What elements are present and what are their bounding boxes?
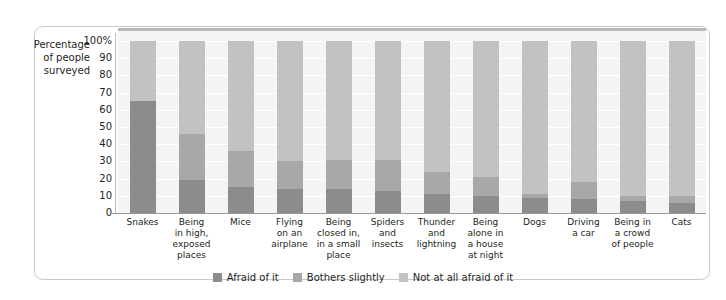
plot-top-rule <box>118 28 706 31</box>
afraid-swatch <box>213 273 222 282</box>
y-tick-label: 30 <box>76 156 112 166</box>
bar-segment-afraid <box>326 189 352 213</box>
bar-segment-not-afraid <box>620 41 646 196</box>
bar-segment-afraid <box>669 203 695 213</box>
bothers-swatch <box>293 273 302 282</box>
y-tick-label: 50 <box>76 122 112 132</box>
bar-segment-bothers <box>277 161 303 189</box>
bar-slot <box>412 41 461 213</box>
stacked-bar[interactable] <box>669 41 695 213</box>
bar-segment-bothers <box>375 160 401 191</box>
stacked-bar[interactable] <box>277 41 303 213</box>
bar-slot <box>265 41 314 213</box>
legend-label: Afraid of it <box>227 272 279 283</box>
bar-segment-afraid <box>179 180 205 213</box>
bar-segment-bothers <box>424 172 450 194</box>
stacked-bar[interactable] <box>179 41 205 213</box>
bar-segment-bothers <box>571 182 597 199</box>
bar-slot <box>216 41 265 213</box>
bar-segment-afraid <box>277 189 303 213</box>
bar-segment-afraid <box>571 199 597 213</box>
stacked-bar[interactable] <box>375 41 401 213</box>
legend-item[interactable]: Not at all afraid of it <box>399 272 514 283</box>
y-tick-label: 90 <box>76 53 112 63</box>
bar-segment-afraid <box>130 101 156 213</box>
y-axis-line <box>115 33 116 214</box>
bar-segment-not-afraid <box>522 41 548 194</box>
bar-segment-bothers <box>669 196 695 203</box>
stacked-bar[interactable] <box>473 41 499 213</box>
stacked-bar[interactable] <box>571 41 597 213</box>
chart-figure: Percentage of people surveyed 0102030405… <box>0 0 726 300</box>
bar-slot <box>608 41 657 213</box>
stacked-bar[interactable] <box>228 41 254 213</box>
legend-label: Not at all afraid of it <box>413 272 514 283</box>
y-tick-label: 80 <box>76 70 112 80</box>
bar-segment-afraid <box>424 194 450 213</box>
y-tick-label: 100% <box>72 36 112 46</box>
stacked-bar[interactable] <box>326 41 352 213</box>
bar-segment-not-afraid <box>179 41 205 134</box>
bar-segment-afraid <box>473 196 499 213</box>
bar-segment-afraid <box>228 187 254 213</box>
y-tick-label: 70 <box>76 88 112 98</box>
legend-label: Bothers slightly <box>307 272 385 283</box>
bar-segment-not-afraid <box>326 41 352 160</box>
bar-slot <box>461 41 510 213</box>
legend-item[interactable]: Afraid of it <box>213 272 279 283</box>
bar-segment-not-afraid <box>375 41 401 160</box>
bar-segment-not-afraid <box>228 41 254 151</box>
bar-segment-afraid <box>522 198 548 213</box>
bar-segment-not-afraid <box>130 41 156 101</box>
bar-segment-bothers <box>522 194 548 197</box>
bar-segment-not-afraid <box>277 41 303 161</box>
bar-slot <box>657 41 706 213</box>
bar-segment-not-afraid <box>424 41 450 172</box>
y-tick-label: 40 <box>76 139 112 149</box>
x-axis-line <box>112 213 706 214</box>
bar-segment-not-afraid <box>473 41 499 177</box>
plot-top-band <box>118 31 706 41</box>
stacked-bar[interactable] <box>522 41 548 213</box>
x-tick-label: Cats <box>651 217 712 228</box>
bar-segment-afraid <box>375 191 401 213</box>
y-tick-label: 20 <box>76 174 112 184</box>
bar-slot <box>314 41 363 213</box>
bar-segment-bothers <box>620 196 646 201</box>
plot-area <box>118 41 706 213</box>
bar-segment-bothers <box>228 151 254 187</box>
not-afraid-swatch <box>399 273 408 282</box>
bar-slot <box>510 41 559 213</box>
bar-segment-not-afraid <box>571 41 597 182</box>
stacked-bar[interactable] <box>424 41 450 213</box>
y-tick-label: 10 <box>76 191 112 201</box>
bar-segment-bothers <box>179 134 205 180</box>
bar-segment-not-afraid <box>669 41 695 196</box>
y-tick-label: 0 <box>76 208 112 218</box>
bar-slot <box>118 41 167 213</box>
chart-legend: Afraid of itBothers slightlyNot at all a… <box>0 272 726 283</box>
legend-item[interactable]: Bothers slightly <box>293 272 385 283</box>
bar-segment-bothers <box>473 177 499 196</box>
stacked-bar[interactable] <box>620 41 646 213</box>
y-tick-label: 60 <box>76 105 112 115</box>
bar-slot <box>559 41 608 213</box>
bar-slot <box>167 41 216 213</box>
bar-segment-afraid <box>620 201 646 213</box>
bar-slot <box>363 41 412 213</box>
stacked-bar[interactable] <box>130 41 156 213</box>
bar-segment-bothers <box>326 160 352 189</box>
